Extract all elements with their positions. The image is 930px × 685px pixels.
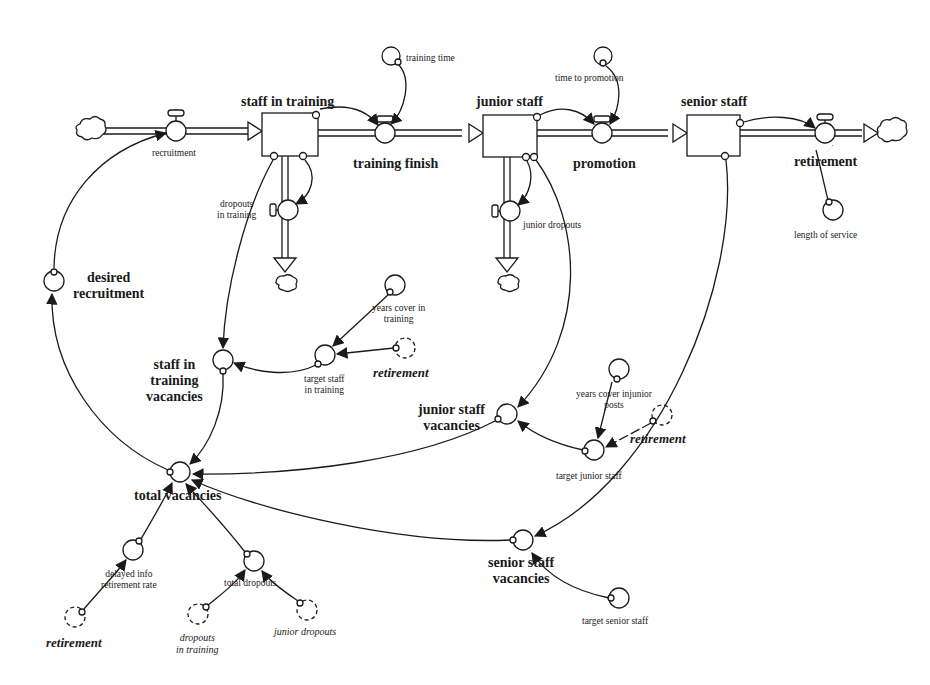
label-ghost-retirement-2: retirement	[630, 432, 686, 447]
label-total-vacancies: total vacancies	[134, 488, 221, 504]
label-time-to-promotion: time to promotion	[555, 73, 624, 84]
valve-junior-dropouts[interactable]	[492, 201, 520, 221]
label-years-cover-in-training: years cover in training	[372, 303, 425, 325]
label-ghost-dropouts-in-training: dropouts in training	[176, 632, 219, 655]
junior-dropouts-pipe	[496, 157, 519, 292]
label-length-of-service: length of service	[794, 230, 857, 241]
source-cloud-icon	[76, 117, 106, 140]
pipe-arrowhead-icon	[469, 124, 483, 142]
valve-dropouts-in-training[interactable]	[270, 200, 298, 220]
valve-promotion[interactable]	[592, 116, 612, 143]
label-ghost-retirement-3: retirement	[46, 636, 102, 651]
label-senior-staff: senior staff	[681, 94, 747, 110]
label-target-senior-staff: target senior staff	[582, 616, 648, 627]
label-retirement: retirement	[794, 154, 857, 170]
label-senior-staff-vacancies: senior staff vacancies	[488, 555, 554, 587]
label-target-staff-in-training: target staff in training	[304, 374, 345, 396]
label-delayed-info-retirement-rate: delayed info retirement rate	[101, 569, 157, 591]
pipe-arrowhead-icon	[248, 122, 262, 140]
label-junior-dropouts: junior dropouts	[523, 220, 581, 231]
valve-recruitment[interactable]	[166, 110, 186, 141]
dropouts-in-training-pipe	[274, 156, 297, 292]
stock-junior-staff[interactable]	[483, 115, 537, 157]
label-recruitment: recruitment	[152, 148, 196, 159]
sink-cloud-icon	[877, 118, 907, 142]
valve-training-finish[interactable]	[375, 116, 395, 143]
pipe-arrowhead-icon	[673, 124, 687, 142]
label-staff-in-training: staff in training	[241, 94, 334, 110]
label-junior-staff-vacancies: junior staff vacancies	[418, 402, 485, 434]
aux-staff-in-training-vacancies[interactable]	[213, 350, 233, 370]
label-staff-in-training-vacancies: staff in training vacancies	[146, 357, 203, 405]
stock-staff-in-training[interactable]	[262, 113, 318, 156]
label-target-junior-staff: target junior staff	[556, 471, 622, 482]
label-total-dropouts: total dropouts	[224, 578, 277, 589]
stock-senior-staff[interactable]	[687, 115, 740, 156]
label-training-finish: training finish	[353, 156, 438, 172]
label-years-cover-injunior-posts: years cover injunior posts	[576, 389, 652, 411]
sink-cloud-icon	[498, 275, 519, 292]
label-dropouts-in-training: dropouts in training	[217, 199, 256, 221]
label-promotion: promotion	[573, 156, 636, 172]
label-junior-staff: junior staff	[476, 94, 543, 110]
sink-cloud-icon	[276, 275, 297, 292]
label-training-time: training time	[406, 53, 455, 64]
label-ghost-retirement-1: retirement	[373, 366, 429, 381]
pipe-arrowhead-icon	[864, 124, 878, 142]
valve-retirement[interactable]	[815, 114, 835, 143]
label-ghost-junior-dropouts: junior dropouts	[274, 626, 336, 638]
label-desired-recruitment: desired recruitment	[73, 270, 144, 302]
